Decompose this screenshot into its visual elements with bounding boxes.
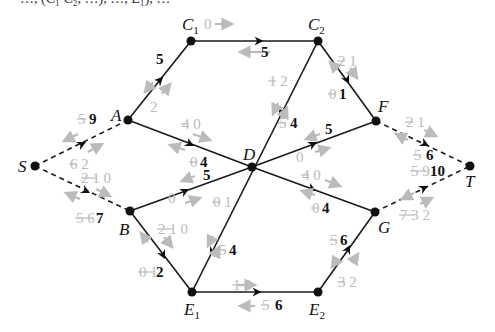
old-D-F: 0 xyxy=(296,149,304,165)
flow-D-G: 4 xyxy=(322,200,330,216)
node-label-F: F xyxy=(377,97,389,116)
flow-F-T: 6 xyxy=(426,147,434,163)
old-A-C1: 2 xyxy=(150,99,158,115)
flow-C2-D: 4 xyxy=(290,115,298,131)
arrow-icon xyxy=(423,143,425,144)
node-T xyxy=(466,162,475,171)
flow-network-diagram: S A B C1 C2 D F G T E1 E2 9 7 5 4 5 2 5 … xyxy=(0,0,495,332)
node-label-B: B xyxy=(119,220,130,239)
node-A xyxy=(124,116,133,125)
node-E1 xyxy=(188,288,197,297)
node-F xyxy=(372,117,381,126)
node-label-C2: C2 xyxy=(308,15,325,36)
flow-G-T: 10 xyxy=(430,163,445,179)
node-label-S: S xyxy=(18,157,27,176)
flow-C2-F: 1 xyxy=(339,86,347,102)
node-label-T: T xyxy=(465,172,476,191)
flow-E1-E2: 6 xyxy=(275,297,283,313)
arrow-icon xyxy=(422,188,424,189)
node-label-D: D xyxy=(242,145,256,164)
flow-S-B: 7 xyxy=(96,210,104,226)
node-G xyxy=(371,208,380,217)
arrow-icon xyxy=(80,144,82,145)
old-C1-C2-fwd: 0 xyxy=(204,16,212,32)
flow-D-E1: 4 xyxy=(229,242,237,258)
arrow-icon xyxy=(158,80,160,82)
flow-B-D: 5 xyxy=(203,167,211,183)
node-label-A: A xyxy=(110,106,122,125)
node-C1 xyxy=(187,37,196,46)
flow-C1-C2: 5 xyxy=(261,44,269,60)
node-S xyxy=(31,162,40,171)
node-label-C1: C1 xyxy=(182,15,199,36)
node-label-G: G xyxy=(378,218,390,237)
node-label-E1: E1 xyxy=(183,300,200,321)
node-label-E2: E2 xyxy=(308,300,325,321)
edge-D-F xyxy=(252,121,376,167)
flow-S-A: 9 xyxy=(89,111,97,127)
flow-D-F: 5 xyxy=(325,121,333,137)
old-B-D: 0 xyxy=(168,190,176,206)
flow-A-C1: 5 xyxy=(156,51,164,67)
nodes xyxy=(31,37,475,297)
node-B xyxy=(126,207,135,216)
edge-B-D xyxy=(130,167,252,211)
node-C2 xyxy=(314,37,323,46)
node-E2 xyxy=(314,288,323,297)
flow-E2-G: 6 xyxy=(340,232,348,248)
